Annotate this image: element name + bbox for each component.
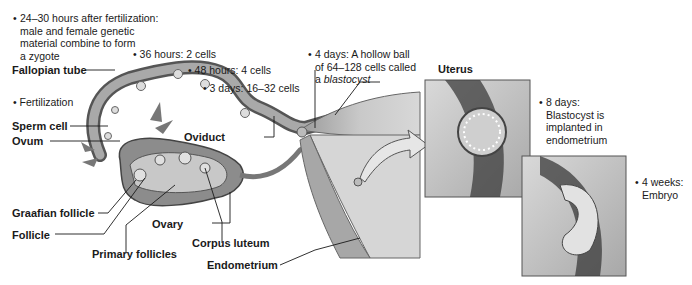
label-corpus-luteum: Corpus luteum (192, 237, 270, 250)
embryo-inset (522, 156, 626, 276)
stage-two-cells: • 36 hours: 2 cells (133, 48, 216, 61)
label-uterus: Uterus (438, 63, 473, 76)
implantation-inset (425, 80, 530, 197)
label-primary-follicles: Primary follicles (92, 248, 177, 261)
stage-four-cells: • 48 hours: 4 cells (188, 64, 271, 77)
ovary-shape (119, 138, 320, 205)
stage-implantation: •8 days: Blastocyst is implanted in endo… (539, 96, 607, 146)
label-ovary: Ovary (152, 218, 183, 231)
label-endometrium: Endometrium (207, 259, 278, 272)
label-graafian-follicle: Graafian follicle (12, 207, 95, 220)
uterus-shape (297, 92, 420, 258)
label-sperm-cell: Sperm cell (12, 120, 68, 133)
label-oviduct: Oviduct (184, 131, 225, 144)
label-ovum: Ovum (12, 135, 43, 148)
stage-fertilization: • Fertilization (13, 96, 73, 109)
label-fallopian-tube: Fallopian tube (12, 64, 87, 77)
stage-blastocyst: •4 days: A hollow ball of 64–128 cells c… (308, 48, 416, 86)
label-follicle: Follicle (12, 229, 50, 242)
stage-morula: • 3 days: 16–32 cells (203, 82, 300, 95)
stage-embryo: •4 weeks: Embryo (635, 176, 683, 201)
